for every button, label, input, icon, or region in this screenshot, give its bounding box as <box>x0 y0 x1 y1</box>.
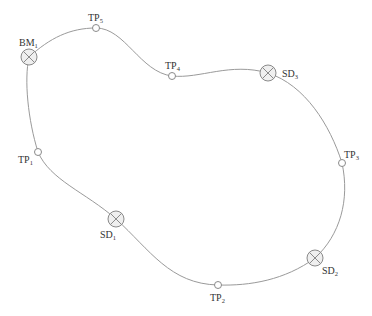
label-tp2: TP2 <box>210 293 225 305</box>
turning-point-tp2-icon <box>215 282 222 289</box>
label-tp1: TP1 <box>18 155 33 167</box>
label-tp4: TP4 <box>165 61 180 73</box>
station-sd1-icon <box>108 211 124 227</box>
label-tp5: TP5 <box>88 13 103 25</box>
route-line <box>27 28 345 285</box>
station-sd2-icon <box>307 250 323 266</box>
label-sd1: SD1 <box>100 230 116 242</box>
leveling-route-diagram <box>0 0 372 316</box>
label-bm1: BM1 <box>19 38 38 50</box>
label-sd2: SD2 <box>322 266 338 278</box>
turning-point-tp1-icon <box>35 149 42 156</box>
turning-point-tp5-icon <box>93 25 100 32</box>
station-sd3-icon <box>260 65 276 81</box>
turning-point-tp4-icon <box>169 73 176 80</box>
benchmark-bm1-icon <box>21 49 37 65</box>
label-tp3: TP3 <box>344 150 359 162</box>
label-sd3: SD3 <box>282 69 298 81</box>
